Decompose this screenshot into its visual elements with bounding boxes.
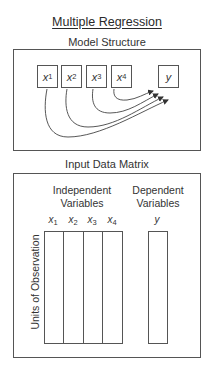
- independent-variables-label: Independent Variables: [36, 184, 128, 210]
- matrix-column-x4: [102, 231, 123, 344]
- dependent-label-line1: Dependent: [128, 184, 188, 197]
- matrix-column-x1: [44, 231, 64, 344]
- arrow-x4-to-y: [114, 89, 153, 100]
- column-label-y: y: [147, 214, 167, 225]
- column-label-x4: x4: [102, 214, 122, 227]
- column-label-x3: x3: [82, 214, 102, 227]
- col-subscript: 4: [112, 218, 116, 227]
- column-label-x1: x1: [43, 214, 63, 227]
- matrix-column-x3: [83, 231, 103, 344]
- col-symbol: y: [155, 214, 160, 225]
- matrix-column-y: [148, 231, 168, 344]
- independent-label-line2: Variables: [36, 197, 128, 210]
- col-subscript: 1: [53, 218, 57, 227]
- col-subscript: 3: [92, 218, 96, 227]
- input-data-matrix-heading: Input Data Matrix: [0, 158, 214, 170]
- matrix-column-x2: [63, 231, 84, 344]
- dependent-variables-label: Dependent Variables: [128, 184, 188, 210]
- independent-label-line1: Independent: [36, 184, 128, 197]
- column-label-x2: x2: [63, 214, 83, 227]
- units-of-observation-label: Units of Observation: [29, 232, 41, 332]
- col-subscript: 2: [73, 218, 77, 227]
- dependent-label-line2: Variables: [128, 197, 188, 210]
